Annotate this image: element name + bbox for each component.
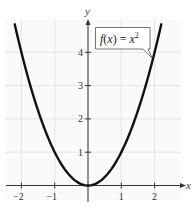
y-axis-label: y [84, 5, 90, 17]
y-tick-label: 2 [78, 113, 83, 124]
y-tick-label: 3 [78, 80, 83, 91]
x-axis-label: x [185, 179, 191, 191]
parabola-chart: −2−1121234 f(x) = x2 x y [0, 0, 192, 214]
callout-label: f(x) = x2 [100, 31, 139, 46]
x-tick-label: 1 [119, 191, 124, 202]
y-tick-label: 1 [78, 147, 83, 158]
x-tick-label: −2 [13, 191, 24, 202]
x-tick-label: 2 [152, 191, 157, 202]
x-tick-label: −1 [46, 191, 57, 202]
y-tick-label: 4 [78, 47, 83, 58]
